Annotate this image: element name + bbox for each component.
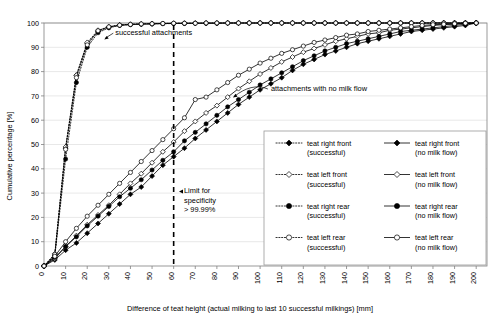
data-point-marker <box>312 54 316 58</box>
data-point-marker <box>247 90 251 94</box>
data-point-marker <box>193 130 197 134</box>
annotation-no-milk-flow: attachments with no milk flow <box>271 84 368 93</box>
data-point-marker <box>312 21 316 25</box>
legend-label-no-milk-flow: teat left front <box>415 170 455 179</box>
data-point-marker <box>247 21 251 25</box>
data-point-marker <box>312 40 316 44</box>
data-point-marker <box>74 80 78 84</box>
data-point-marker <box>269 77 273 81</box>
data-point-marker <box>344 21 348 25</box>
data-point-marker <box>150 148 154 152</box>
data-point-marker <box>409 25 413 29</box>
data-point-marker <box>388 27 392 31</box>
legend-sublabel-successful: (successful) <box>307 243 345 252</box>
data-point-marker <box>394 235 399 240</box>
data-point-marker <box>280 21 284 25</box>
y-tick-label: 90 <box>31 43 39 52</box>
data-point-marker <box>377 28 381 32</box>
data-point-marker <box>420 23 424 27</box>
data-point-marker <box>182 139 186 143</box>
data-point-marker <box>226 105 230 109</box>
data-point-marker <box>301 21 305 25</box>
data-point-marker <box>107 25 111 29</box>
legend-sublabel-successful: (successful) <box>307 211 345 220</box>
y-tick-label: 60 <box>31 116 39 125</box>
y-tick-label: 0 <box>35 262 39 271</box>
x-tick-label: 0 <box>37 272 46 276</box>
legend-label-no-milk-flow: teat right rear <box>415 202 458 211</box>
data-point-marker <box>96 214 100 218</box>
data-point-marker <box>323 38 327 42</box>
y-tick-label: 40 <box>31 164 39 173</box>
legend-sublabel-successful: (successful) <box>307 148 345 157</box>
data-point-marker <box>96 29 100 33</box>
data-point-marker <box>323 49 327 53</box>
data-point-marker <box>204 95 208 99</box>
x-tick-label: 90 <box>231 272 240 280</box>
annotation-line: specificity <box>184 196 216 205</box>
x-tick-label: 130 <box>318 272 327 284</box>
data-point-marker <box>355 21 359 25</box>
data-point-marker <box>139 178 143 182</box>
annotation-successful-attachments: successful attachments <box>115 28 192 37</box>
data-point-marker <box>290 65 294 69</box>
data-point-marker <box>290 48 294 52</box>
data-point-marker <box>442 22 446 26</box>
legend-label-no-milk-flow: teat left rear <box>415 233 454 242</box>
x-tick-label: 150 <box>361 272 370 284</box>
data-point-marker <box>280 71 284 75</box>
data-point-marker <box>64 240 68 244</box>
data-point-marker <box>74 76 78 80</box>
data-point-marker <box>258 21 262 25</box>
data-point-marker <box>394 203 399 208</box>
data-point-marker <box>377 34 381 38</box>
data-point-marker <box>388 32 392 36</box>
y-axis-title: Cumulative percentage [%] <box>5 112 14 201</box>
legend-label-successful: teat right front <box>307 139 351 148</box>
data-point-marker <box>193 21 197 25</box>
data-point-marker <box>474 21 478 25</box>
y-tick-label: 20 <box>31 213 39 222</box>
data-point-marker <box>452 22 456 26</box>
x-tick-label: 170 <box>404 272 413 284</box>
data-point-marker <box>247 67 251 71</box>
data-point-marker <box>269 56 273 60</box>
data-point-marker <box>128 186 132 190</box>
data-point-marker <box>301 44 305 48</box>
x-tick-label: 140 <box>340 272 349 284</box>
data-point-marker <box>85 214 89 218</box>
x-tick-label: 30 <box>102 272 111 280</box>
data-point-marker <box>286 235 291 240</box>
data-point-marker <box>377 21 381 25</box>
data-point-marker <box>128 22 132 26</box>
data-point-marker <box>182 21 186 25</box>
data-point-marker <box>344 33 348 37</box>
data-point-marker <box>53 254 57 258</box>
x-tick-label: 50 <box>145 272 154 280</box>
y-tick-label: 10 <box>31 237 39 246</box>
data-point-marker <box>431 23 435 27</box>
x-tick-label: 20 <box>80 272 89 280</box>
data-point-marker <box>150 22 154 26</box>
data-point-marker <box>344 42 348 46</box>
data-point-marker <box>366 21 370 25</box>
chart-legend: teat right front(successful)teat right f… <box>264 131 486 265</box>
data-point-marker <box>161 138 165 142</box>
x-tick-label: 180 <box>426 272 435 284</box>
data-point-marker <box>398 21 402 25</box>
data-point-marker <box>161 158 165 162</box>
x-tick-label: 80 <box>210 272 219 280</box>
legend-sublabel-no-milk-flow: (no milk flow) <box>415 148 457 157</box>
data-point-marker <box>74 235 78 239</box>
data-point-marker <box>85 43 89 47</box>
data-point-marker <box>96 203 100 207</box>
x-tick-label: 190 <box>448 272 457 284</box>
data-point-marker <box>64 147 68 151</box>
y-tick-label: 100 <box>27 19 39 28</box>
data-point-marker <box>118 195 122 199</box>
legend-label-successful: teat right rear <box>307 202 350 211</box>
data-point-marker <box>323 21 327 25</box>
data-point-marker <box>463 21 467 25</box>
x-tick-label: 120 <box>296 272 305 284</box>
y-tick-label: 50 <box>31 140 39 149</box>
